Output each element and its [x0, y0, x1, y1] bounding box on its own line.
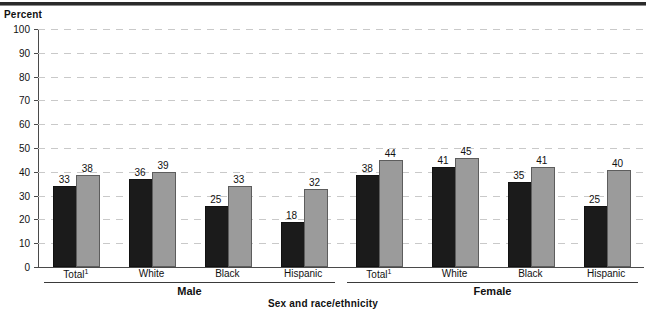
y-axis-title: Percent: [4, 9, 42, 20]
y-axis-tick: [34, 77, 38, 78]
y-axis-tick-label: 30: [19, 190, 30, 201]
bar-light: [152, 172, 176, 267]
gridline: [38, 53, 644, 54]
y-axis-tick-labels: 0102030405060708090100: [0, 29, 34, 267]
bar-value-label: 45: [451, 146, 481, 157]
bar-value-label: 25: [201, 194, 231, 205]
top-border-rule-thin: [0, 5, 646, 6]
y-axis-tick: [34, 172, 38, 173]
bar-dark: [508, 182, 532, 267]
group-rule: [347, 282, 638, 283]
group-label: Female: [423, 285, 563, 297]
group-rule: [44, 282, 335, 283]
y-axis-tick: [34, 29, 38, 30]
y-axis-tick: [34, 124, 38, 125]
gridline: [38, 77, 644, 78]
bar-value-label: 33: [49, 174, 79, 185]
y-axis-tick-label: 80: [19, 71, 30, 82]
y-axis-tick-label: 70: [19, 95, 30, 106]
bar-dark: [281, 222, 305, 267]
bar-value-label: 38: [72, 163, 102, 174]
bar-value-label: 32: [300, 177, 330, 188]
bar-value-label: 41: [527, 155, 557, 166]
y-axis-tick-label: 40: [19, 166, 30, 177]
gridline: [38, 29, 644, 30]
y-axis-tick: [34, 243, 38, 244]
bar-value-label: 38: [352, 163, 382, 174]
bar-chart: Percent 0102030405060708090100 333836392…: [0, 0, 646, 310]
bar-light: [228, 186, 252, 267]
bar-value-label: 41: [428, 155, 458, 166]
bar-value-label: 40: [603, 158, 633, 169]
y-axis-tick-label: 50: [19, 143, 30, 154]
bar-dark: [53, 186, 77, 267]
y-axis-tick: [34, 219, 38, 220]
bar-value-label: 35: [504, 170, 534, 181]
bar-light: [455, 158, 479, 267]
plot-area: 33383639253318323844414535412540: [38, 29, 644, 267]
y-axis-tick: [34, 100, 38, 101]
gridline: [38, 100, 644, 101]
bar-value-label: 39: [148, 160, 178, 171]
y-axis-tick-label: 10: [19, 238, 30, 249]
x-axis-title: Sex and race/ethnicity: [0, 298, 646, 309]
bar-light: [379, 160, 403, 267]
bar-dark: [356, 175, 380, 267]
y-axis-tick-label: 90: [19, 47, 30, 58]
gridline: [38, 148, 644, 149]
y-axis-tick: [34, 148, 38, 149]
y-axis-tick: [34, 53, 38, 54]
group-label: Male: [120, 285, 260, 297]
bar-value-label: 18: [277, 210, 307, 221]
y-axis-tick-label: 60: [19, 119, 30, 130]
bar-dark: [584, 206, 608, 268]
bar-light: [531, 167, 555, 267]
gridline: [38, 124, 644, 125]
bar-dark: [432, 167, 456, 267]
bar-value-label: 33: [224, 174, 254, 185]
bar-dark: [205, 206, 229, 268]
bar-light: [304, 189, 328, 267]
bar-light: [76, 175, 100, 267]
y-axis-tick-label: 0: [24, 262, 30, 273]
category-labels: Total1WhiteBlackHispanicTotal1WhiteBlack…: [38, 268, 644, 281]
bar-dark: [129, 179, 153, 267]
y-axis-tick: [34, 196, 38, 197]
y-axis-tick-label: 20: [19, 214, 30, 225]
bar-light: [607, 170, 631, 267]
category-label: Hispanic: [561, 268, 646, 279]
bar-value-label: 25: [580, 194, 610, 205]
y-axis-tick-label: 100: [13, 24, 30, 35]
bar-value-label: 44: [375, 148, 405, 159]
